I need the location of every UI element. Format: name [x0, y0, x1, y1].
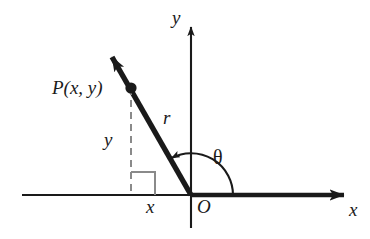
point-p-label: P(x, y) — [52, 78, 103, 97]
opposite-side-label: y — [104, 130, 112, 149]
trig-angle-diagram: P(x, y) r y x θ O y x — [0, 0, 370, 239]
diagram-canvas — [0, 0, 370, 239]
adjacent-side-label: x — [146, 197, 154, 216]
point-p-marker — [125, 82, 136, 93]
radius-label: r — [163, 108, 170, 127]
angle-theta-label: θ — [213, 147, 223, 167]
origin-label: O — [197, 197, 211, 216]
y-axis-label: y — [172, 8, 180, 27]
terminal-side-ray — [112, 57, 191, 195]
x-axis-label: x — [349, 200, 357, 219]
right-angle-marker — [131, 172, 155, 195]
